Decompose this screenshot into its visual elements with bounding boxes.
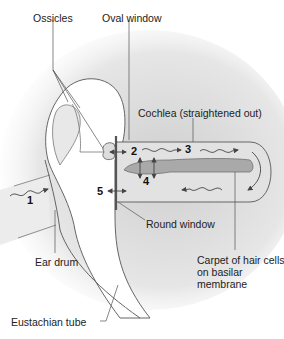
label-round-window: Round window [146, 218, 215, 230]
label-eustachian-tube: Eustachian tube [11, 316, 86, 328]
step-1: 1 [27, 194, 33, 206]
step-4: 4 [143, 175, 149, 187]
ear-diagram: Ossicles Oval window Cochlea (straighten… [0, 0, 284, 339]
label-ear-drum: Ear drum [35, 256, 78, 268]
label-hair-cells: Carpet of hair cells on basilar membrane [197, 254, 284, 290]
label-oval-window: Oval window [102, 12, 162, 24]
label-cochlea: Cochlea (straightened out) [138, 107, 262, 119]
label-ossicles: Ossicles [33, 12, 73, 24]
stapes [103, 143, 116, 160]
step-2: 2 [131, 145, 137, 157]
step-5: 5 [97, 185, 103, 197]
step-3: 3 [185, 143, 191, 155]
